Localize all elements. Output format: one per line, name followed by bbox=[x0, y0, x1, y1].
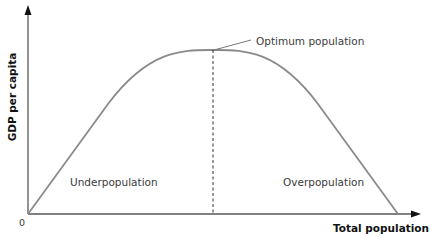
overpopulation-label: Overpopulation bbox=[283, 176, 364, 188]
population-diagram: Optimum population Underpopulation Overp… bbox=[0, 0, 430, 239]
optimum-leader-line bbox=[214, 40, 251, 50]
y-axis-arrow-icon bbox=[25, 5, 32, 15]
underpopulation-label: Underpopulation bbox=[70, 176, 158, 188]
x-axis-label: Total population bbox=[333, 222, 429, 234]
x-axis-arrow-icon bbox=[411, 211, 421, 218]
y-axis-label: GDP per capita bbox=[6, 53, 18, 142]
origin-label: 0 bbox=[19, 217, 25, 228]
optimum-label: Optimum population bbox=[256, 35, 364, 47]
